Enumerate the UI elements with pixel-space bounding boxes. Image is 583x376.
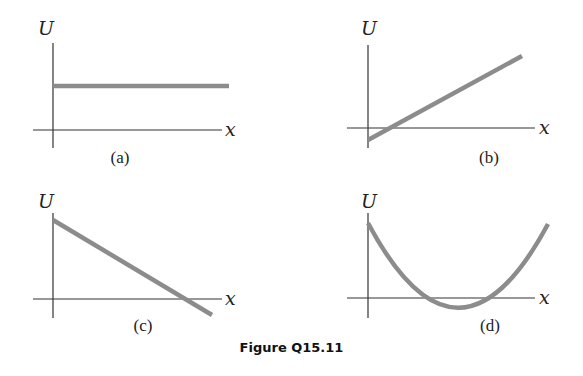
y-axis-label: U — [361, 17, 378, 39]
panel-label: (c) — [134, 316, 153, 335]
potential-curve — [53, 220, 212, 315]
y-axis-label: U — [38, 17, 55, 39]
panel-label: (d) — [480, 316, 500, 335]
x-axis-label: x — [539, 116, 550, 138]
y-axis-label: U — [361, 190, 378, 212]
figure-caption: Figure Q15.11 — [0, 340, 583, 355]
x-axis-label: x — [225, 287, 236, 309]
panel-c: U x (c) — [33, 190, 236, 335]
panel-b: U x (b) — [347, 17, 550, 167]
figure-canvas: U x (a) U x (b) U x (c) U x (d) — [0, 0, 583, 376]
panel-a: U x (a) — [33, 17, 236, 167]
x-axis-label: x — [225, 118, 236, 140]
panel-label: (a) — [111, 148, 130, 167]
potential-curve — [368, 223, 548, 308]
panel-label: (b) — [479, 148, 499, 167]
y-axis-label: U — [38, 190, 55, 212]
panel-d: U x (d) — [347, 190, 550, 335]
x-axis-label: x — [539, 286, 550, 308]
